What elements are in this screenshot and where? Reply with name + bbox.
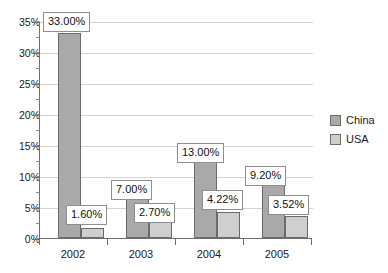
chart-legend: China USA [330, 112, 388, 150]
x-axis-tick [311, 239, 312, 245]
bar-usa-2002[interactable] [81, 228, 104, 238]
data-label-china-2003: 7.00% [111, 180, 152, 200]
legend-item-usa[interactable]: USA [330, 131, 388, 148]
x-category-label: 2003 [111, 249, 171, 260]
bar-usa-2003[interactable] [149, 221, 172, 238]
x-axis-tick [107, 239, 108, 245]
x-category-label: 2005 [247, 249, 307, 260]
data-label-usa-2005: 3.52% [268, 195, 309, 215]
data-label-china-2002: 33.00% [43, 12, 90, 32]
bar-usa-2005[interactable] [285, 216, 308, 238]
x-axis-tick [175, 239, 176, 245]
legend-swatch-china-icon [330, 115, 341, 126]
data-label-usa-2002: 1.60% [66, 205, 107, 225]
x-axis-tick [243, 239, 244, 245]
data-label-china-2004: 13.00% [177, 143, 224, 163]
data-label-usa-2004: 4.22% [202, 190, 243, 210]
data-label-china-2005: 9.20% [245, 166, 286, 186]
legend-swatch-usa-icon [330, 134, 341, 145]
bar-usa-2004[interactable] [217, 212, 240, 238]
x-category-label: 2002 [43, 249, 103, 260]
legend-label-usa: USA [346, 134, 369, 145]
legend-item-china[interactable]: China [330, 112, 388, 129]
x-category-label: 2004 [179, 249, 239, 260]
legend-label-china: China [346, 115, 375, 126]
x-axis-tick [39, 239, 40, 245]
grouped-bar-chart: 35% 30% 25% 20% 15% 10% 5% 0% [0, 0, 388, 273]
data-label-usa-2003: 2.70% [134, 203, 175, 223]
